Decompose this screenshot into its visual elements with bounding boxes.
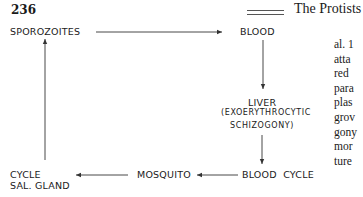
body-text-column: al. 1 atta red para plas grov gony mor t… bbox=[334, 37, 357, 168]
body-line: gony bbox=[334, 125, 357, 140]
node-blood-cycle: BLOOD CYCLE bbox=[242, 169, 314, 180]
node-sal-gland: SAL. GLAND bbox=[10, 180, 70, 191]
node-mosquito: MOSQUITO bbox=[137, 169, 191, 180]
body-line: mor bbox=[334, 139, 357, 154]
node-liver-sub2: SCHIZOGONY) bbox=[221, 121, 303, 130]
body-line: grov bbox=[334, 110, 357, 125]
node-liver: LIVER bbox=[248, 97, 276, 108]
body-line: para bbox=[334, 81, 357, 96]
body-line: plas bbox=[334, 95, 357, 110]
body-line: al. 1 bbox=[334, 37, 357, 52]
node-cycle: CYCLE bbox=[10, 169, 41, 180]
node-sporozoites: SPOROZOITES bbox=[10, 26, 80, 37]
node-liver-sub1: (EXOERYTHROCYTIC bbox=[221, 108, 303, 117]
body-line: atta bbox=[334, 52, 357, 67]
body-line: ture bbox=[334, 154, 357, 169]
body-line: red bbox=[334, 66, 357, 81]
node-blood: BLOOD bbox=[240, 26, 275, 37]
